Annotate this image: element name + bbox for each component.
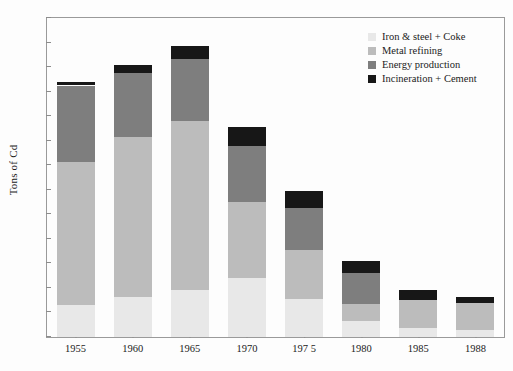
bar-segment (285, 191, 323, 208)
chart-page: Tons of Cd 02040608010012014016018020022… (0, 0, 513, 371)
y-axis-tick-mark (46, 311, 51, 312)
x-axis-tick-label: 1960 (122, 343, 143, 354)
bar-segment (285, 208, 323, 250)
y-axis-tick-mark (46, 164, 51, 165)
legend-swatch-icon (368, 75, 376, 83)
bar-segment (171, 59, 209, 122)
x-axis-tick-label: 197 5 (292, 343, 316, 354)
legend-item: Iron & steel + Coke (368, 30, 477, 43)
bar-segment (285, 250, 323, 299)
bar-segment (57, 162, 95, 306)
y-axis-tick-mark (46, 213, 51, 214)
bar-segment (228, 202, 266, 278)
bar-segment (342, 304, 380, 321)
x-axis-tick-label: 1955 (65, 343, 86, 354)
y-axis-tick-mark (46, 189, 51, 190)
x-axis-tick: 1985 (408, 338, 429, 349)
x-axis-tick-label: 1965 (179, 343, 200, 354)
bar-segment (228, 278, 266, 337)
legend-swatch-icon (368, 47, 376, 55)
y-axis-title: Tons of Cd (2, 0, 24, 340)
x-axis-tick: 1980 (351, 338, 372, 349)
bar-segment (114, 65, 152, 74)
bar-segment (57, 82, 95, 86)
y-axis-tick-mark (46, 140, 51, 141)
legend-swatch-icon (368, 33, 376, 41)
y-axis-tick-mark (46, 42, 51, 43)
bar-segment (285, 299, 323, 337)
bar-column (399, 290, 437, 337)
y-axis-tick-mark (46, 336, 51, 337)
x-axis-tick-label: 1970 (236, 343, 257, 354)
bar-segment (399, 328, 437, 337)
bar-segment (399, 300, 437, 328)
x-axis-tick: 1988 (465, 338, 486, 349)
bar-segment (114, 297, 152, 337)
bar-segment (456, 303, 494, 330)
bar-segment (171, 121, 209, 290)
y-axis-tick-mark (46, 287, 51, 288)
bar-segment (456, 330, 494, 337)
bar-segment (399, 290, 437, 300)
bar-column (57, 82, 95, 337)
legend-item-label: Energy production (382, 59, 460, 70)
bar-column (342, 261, 380, 337)
x-axis-tick: 1970 (236, 338, 257, 349)
legend-item: Incineration + Cement (368, 72, 477, 85)
bar-column (456, 297, 494, 337)
x-axis-tick: 1955 (65, 338, 86, 349)
bar-segment (342, 261, 380, 273)
bar-segment (57, 305, 95, 337)
y-axis-tick-mark (46, 115, 51, 116)
bar-segment (171, 290, 209, 337)
legend-item-label: Iron & steel + Coke (382, 31, 466, 42)
x-axis-tick-label: 1980 (351, 343, 372, 354)
bar-segment (342, 321, 380, 337)
bar-column (285, 191, 323, 337)
bar-column (114, 65, 152, 337)
y-axis-tick-mark (46, 238, 51, 239)
x-axis-tick-label: 1988 (465, 343, 486, 354)
bar-segment (57, 86, 95, 162)
x-axis-tick: 1960 (122, 338, 143, 349)
bar-segment (114, 137, 152, 297)
y-axis-tick-mark (46, 262, 51, 263)
x-axis-tick: 1965 (179, 338, 200, 349)
x-axis-tick: 197 5 (292, 338, 316, 349)
legend-item-label: Metal refining (382, 45, 442, 56)
x-axis-tick-label: 1985 (408, 343, 429, 354)
legend-item-label: Incineration + Cement (382, 73, 477, 84)
bar-segment (228, 127, 266, 145)
bar-segment (171, 46, 209, 58)
y-axis-tick-mark (46, 17, 51, 18)
chart-legend: Iron & steel + CokeMetal refiningEnergy … (358, 24, 485, 93)
bar-column (171, 46, 209, 337)
legend-item: Metal refining (368, 44, 477, 57)
y-axis-tick-mark (46, 66, 51, 67)
bar-segment (456, 297, 494, 303)
bar-segment (114, 73, 152, 137)
legend-swatch-icon (368, 61, 376, 69)
bar-column (228, 127, 266, 337)
y-axis-title-text: Tons of Cd (7, 145, 19, 196)
y-axis-tick-mark (46, 91, 51, 92)
legend-item: Energy production (368, 58, 477, 71)
bar-segment (342, 273, 380, 304)
bar-segment (228, 146, 266, 202)
